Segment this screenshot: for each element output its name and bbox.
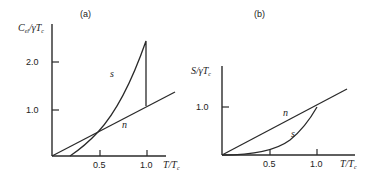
panel-a-ylabel: Cel/γTc <box>18 22 44 34</box>
panel-b-title: (b) <box>254 9 265 19</box>
panel-a-ytick-label-2: 2.0 <box>26 57 39 67</box>
panel-b-ylabel: S/γTc <box>191 65 211 77</box>
panel-b-ytick-label-1: 1.0 <box>196 102 209 112</box>
panel-a-xtick-label-10: 1.0 <box>140 160 153 170</box>
panel-a-ytick-label-1: 1.0 <box>26 105 39 115</box>
panel-a-series-s <box>70 41 146 156</box>
panel-a: (a) Cel/γTc 2.0 1.0 0.5 1.0 T/Tc s n <box>18 9 180 171</box>
panel-b-label-s: s <box>291 128 295 139</box>
figure: (a) Cel/γTc 2.0 1.0 0.5 1.0 T/Tc s n (b)… <box>0 0 374 175</box>
panel-a-series-n <box>52 92 175 156</box>
panel-b-xlabel: T/Tc <box>340 158 357 170</box>
panel-a-label-s: s <box>110 68 114 79</box>
panel-a-xtick-label-05: 0.5 <box>93 160 106 170</box>
panel-a-label-n: n <box>122 119 127 130</box>
panel-b: (b) S/γTc 1.0 0.5 1.0 T/Tc n s <box>191 9 357 170</box>
panel-b-xtick-label-10: 1.0 <box>310 159 323 169</box>
panel-b-xtick-label-05: 0.5 <box>263 159 276 169</box>
panel-a-xlabel: T/Tc <box>163 159 180 171</box>
panel-b-label-n: n <box>283 107 288 118</box>
panel-b-series-n <box>222 89 347 155</box>
panel-a-title: (a) <box>80 9 91 19</box>
